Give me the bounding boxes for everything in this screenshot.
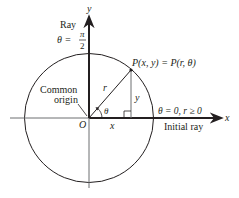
ray-label: Ray xyxy=(60,19,76,30)
pi-numerator: π xyxy=(80,29,85,39)
x-leg-label: x xyxy=(109,120,115,131)
right-angle-marker xyxy=(124,111,131,118)
x-axis-label: x xyxy=(224,112,230,123)
polar-coordinates-diagram: y x O Ray θ = π 2 Common origin P(x, y) … xyxy=(0,0,239,198)
y-leg-label: y xyxy=(134,92,140,103)
radius-label: r xyxy=(103,82,107,93)
initial-ray-label: Initial ray xyxy=(164,121,203,132)
pi-denominator: 2 xyxy=(80,41,85,51)
point-p-label: P(x, y) = P(r, θ) xyxy=(131,57,197,69)
y-axis-label: y xyxy=(86,3,92,14)
vertical-theta-prefix: θ = xyxy=(57,34,71,45)
origin-label: O xyxy=(79,119,86,130)
origin-pointer xyxy=(78,104,87,116)
initial-condition-label: θ = 0, r ≥ 0 xyxy=(158,106,202,116)
common-origin-line2: origin xyxy=(54,94,78,105)
angle-label: θ xyxy=(104,106,109,116)
angle-arc xyxy=(98,108,103,118)
point-p xyxy=(129,68,132,71)
